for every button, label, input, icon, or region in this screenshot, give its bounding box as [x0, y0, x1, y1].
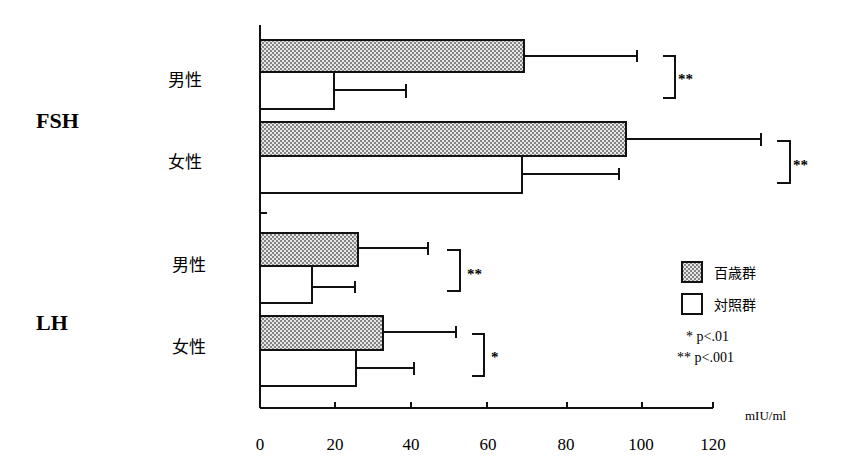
bar-group-fsh-female: [260, 122, 761, 193]
hormone-label-fsh: FSH: [36, 108, 79, 133]
legend-label-centenarian: 百歳群: [714, 265, 756, 281]
bracket-lh-male: [447, 250, 460, 291]
group-label-fsh-male: 男性: [168, 70, 202, 90]
bracket-fsh-male: [663, 56, 675, 98]
bracket-lh-female: [472, 334, 484, 376]
hormone-label-lh: LH: [36, 310, 68, 335]
tick-20: 20: [327, 435, 344, 454]
bar-control: [260, 156, 522, 193]
bar-centenarian: [260, 40, 524, 72]
bar-centenarian: [260, 316, 383, 350]
bar-group-lh-male: [260, 233, 428, 303]
sig-fsh-female: **: [793, 157, 808, 173]
tick-0: 0: [256, 435, 265, 454]
legend-swatch-control: [682, 294, 702, 314]
bar-chart: 0 20 40 60 80 100 120 mIU/ml FSH LH 男性 女…: [0, 0, 843, 474]
bar-group-fsh-male: [260, 40, 637, 109]
sig-fsh-male: **: [678, 71, 693, 87]
tick-60: 60: [480, 435, 497, 454]
legend: 百歳群 対照群 * p<.01 ** p<.001: [677, 262, 756, 365]
tick-120: 120: [700, 435, 726, 454]
tick-80: 80: [558, 435, 575, 454]
sig-lh-female: *: [491, 349, 499, 365]
significance-brackets: [447, 56, 790, 376]
group-label-lh-male: 男性: [172, 255, 206, 275]
group-label-lh-female: 女性: [172, 337, 206, 357]
bracket-fsh-female: [777, 141, 790, 183]
sig-lh-male: **: [467, 266, 482, 282]
x-tick-labels: 0 20 40 60 80 100 120 mIU/ml: [256, 408, 787, 454]
group-label-fsh-female: 女性: [168, 152, 202, 172]
bar-control: [260, 72, 334, 109]
legend-note-p01: * p<.01: [686, 329, 729, 344]
tick-40: 40: [403, 435, 420, 454]
x-axis-unit: mIU/ml: [745, 408, 787, 423]
legend-note-p001: ** p<.001: [677, 350, 734, 365]
bar-centenarian: [260, 233, 358, 266]
bar-group-lh-female: [260, 316, 456, 386]
tick-100: 100: [628, 435, 654, 454]
bar-control: [260, 266, 312, 303]
bar-centenarian: [260, 122, 626, 156]
bar-control: [260, 350, 356, 386]
legend-label-control: 対照群: [714, 297, 756, 313]
legend-swatch-centenarian: [682, 262, 702, 282]
